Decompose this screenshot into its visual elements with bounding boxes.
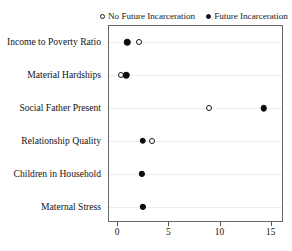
x-tick-label: 15 xyxy=(266,227,275,238)
y-axis-label-5: Maternal Stress xyxy=(41,200,101,211)
chart-legend: No Future Incarceration Future Incarcera… xyxy=(100,9,290,23)
legend-label-future-incarceration: Future Incarceration xyxy=(214,11,288,21)
gridline xyxy=(109,174,282,175)
scatter-chart: No Future Incarceration Future Incarcera… xyxy=(0,0,292,251)
x-tick-label: 5 xyxy=(166,227,171,238)
x-tick-label: 0 xyxy=(115,227,120,238)
x-tick-mark xyxy=(220,222,221,226)
y-axis-label-4: Children in Household xyxy=(14,167,101,178)
legend-item-future-incarceration: Future Incarceration xyxy=(206,11,288,21)
data-point xyxy=(124,39,131,46)
gridline xyxy=(109,108,282,109)
y-axis-labels: Income to Poverty Ratio Material Hardshi… xyxy=(0,25,105,222)
data-point xyxy=(123,72,130,79)
open-circle-icon xyxy=(100,14,105,19)
data-point xyxy=(260,105,267,112)
data-point xyxy=(136,39,142,45)
gridline xyxy=(109,75,282,76)
y-axis-label-1: Material Hardships xyxy=(27,69,101,80)
y-axis-label-2: Social Father Present xyxy=(19,102,101,113)
x-tick-label: 10 xyxy=(215,227,224,238)
gridline xyxy=(109,207,282,208)
legend-item-no-future-incarceration: No Future Incarceration xyxy=(100,11,195,21)
y-axis-label-0: Income to Poverty Ratio xyxy=(7,36,101,47)
x-tick-mark xyxy=(117,222,118,226)
plot-area xyxy=(108,25,283,222)
legend-label-no-future-incarceration: No Future Incarceration xyxy=(108,11,195,21)
data-point xyxy=(138,171,145,178)
x-tick-mark xyxy=(271,222,272,226)
data-point xyxy=(140,138,147,145)
data-point xyxy=(206,105,212,111)
gridline xyxy=(109,141,282,142)
y-axis-label-3: Relationship Quality xyxy=(21,134,101,145)
plot-inner xyxy=(109,26,282,221)
data-point xyxy=(140,203,147,210)
data-point xyxy=(149,138,155,144)
x-axis: 051015 xyxy=(108,222,283,248)
x-tick-mark xyxy=(168,222,169,226)
filled-circle-icon xyxy=(206,14,211,19)
